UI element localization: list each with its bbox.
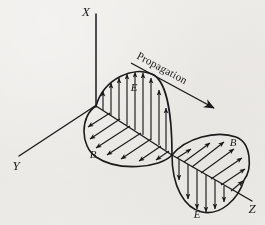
- figure-canvas: X Y Z Propagation: [0, 0, 265, 225]
- left-lobe-b-arrows: [88, 113, 169, 161]
- z-axis-label: Z: [248, 201, 256, 216]
- field-label-e-top: E: [130, 81, 138, 93]
- y-axis-label: Y: [12, 158, 21, 173]
- right-lobe-e-arrows: [179, 159, 224, 212]
- right-lobe-b-envelope: [172, 134, 249, 180]
- field-label-b-left: B: [90, 148, 97, 160]
- electromagnetic-wave-figure: X Y Z Propagation: [0, 0, 265, 225]
- x-axis-label: X: [81, 4, 91, 19]
- field-label-b-right: B: [230, 136, 237, 148]
- z-axis-line-near: [96, 106, 172, 155]
- field-label-e-bottom: E: [193, 208, 201, 220]
- right-lobe-b-field: [172, 134, 249, 191]
- right-lobe-b-arrows: [177, 142, 245, 191]
